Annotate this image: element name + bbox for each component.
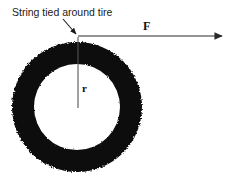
radius-label: r (82, 82, 87, 94)
string-annotation-label: String tied around tire (12, 6, 113, 18)
tire-inner-hole (34, 64, 120, 150)
tire-force-diagram: String tied around tire F r (0, 0, 237, 187)
tire-annulus (12, 42, 142, 172)
force-label: F (143, 19, 150, 33)
